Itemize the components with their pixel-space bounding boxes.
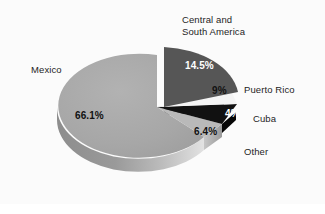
slice-label-puerto-rico: Puerto Rico <box>244 84 295 96</box>
slice-label-mexico: Mexico <box>31 64 62 76</box>
slice-value-mexico: 66.1% <box>75 110 104 121</box>
slice-value-cuba: 4% <box>225 108 240 119</box>
pie-chart-graphic <box>0 0 325 214</box>
slice-label-other: Other <box>244 146 268 158</box>
slice-label-cuba: Cuba <box>253 113 276 125</box>
pie-chart-figure: Central and South America Puerto Rico Cu… <box>0 0 325 214</box>
slice-label-central-south-america-line2: South America <box>182 26 245 38</box>
slice-label-central-south-america-line1: Central and <box>182 14 245 26</box>
slice-value-puerto-rico: 9% <box>212 85 227 96</box>
slice-label-central-south-america: Central and South America <box>182 14 245 37</box>
slice-value-central-south-america: 14.5% <box>185 60 214 71</box>
slice-value-other: 6.4% <box>194 126 217 137</box>
